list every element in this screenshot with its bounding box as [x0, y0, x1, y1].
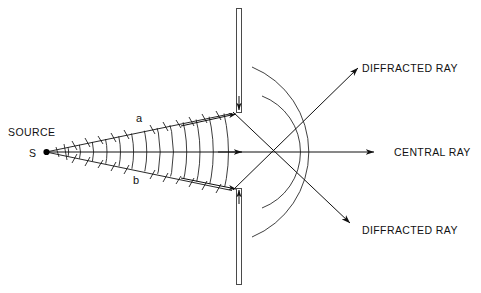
diffracted-ray-lower-feed [181, 178, 236, 189]
source-point-label: S [29, 147, 36, 159]
source-label: SOURCE [8, 126, 55, 138]
diffracted-ray-upper-feed [181, 114, 236, 126]
ray-b-label: b [133, 174, 139, 186]
diffracted-ray-bottom-label: DIFFRACTED RAY [362, 224, 458, 236]
central-ray-label: CENTRAL RAY [394, 146, 471, 158]
barrier-screen [237, 9, 242, 285]
diffracted-ray-top-label: DIFFRACTED RAY [362, 62, 458, 74]
diffraction-figure: SOURCE S a b DIFFRACTED RAY CENTRAL RAY … [0, 0, 481, 293]
ray-a-label: a [136, 112, 143, 124]
diffraction-diagram-canvas: SOURCE S a b DIFFRACTED RAY CENTRAL RAY … [0, 0, 481, 293]
source-point-dot [43, 149, 49, 155]
